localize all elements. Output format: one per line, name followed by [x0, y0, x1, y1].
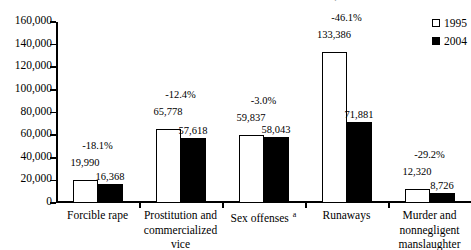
category-label-line: Prostitution and [144, 208, 217, 223]
bar-value-label: 12,320 [403, 166, 432, 177]
category-label-line: nonnegligent [399, 223, 461, 238]
y-axis-tick-mark [50, 157, 56, 159]
category-label-2: Sex offensesa [231, 208, 297, 225]
category-label-line: Runaways [323, 208, 371, 223]
y-axis-tick-label: 20,000 [20, 172, 52, 184]
y-axis-tick-mark [50, 89, 56, 91]
bar-value-label: 133,386 [317, 29, 351, 40]
y-axis-tick-label: 120,000 [15, 59, 52, 71]
bar-2004-0 [98, 184, 123, 203]
category-label-4: Murder andnonnegligentmanslaughter [399, 208, 461, 250]
bar-2004-1 [181, 138, 206, 203]
category-label-line: Sex offensesa [231, 208, 297, 225]
y-axis-tick-label: 60,000 [20, 127, 52, 139]
bar-1995-2 [239, 135, 264, 203]
y-axis-tick-mark [50, 66, 56, 68]
y-axis-tick-mark [50, 21, 56, 23]
y-axis-tick-label: 160,000 [15, 14, 52, 26]
bar-value-label: 65,778 [154, 106, 183, 117]
y-axis-line [56, 22, 58, 203]
category-label-line: vice [144, 237, 217, 250]
arrest-trends-bar-chart: ARREST TRENDS FOR SELECTED OFFENSES, 199… [0, 0, 471, 250]
y-axis-tick-label: 80,000 [20, 105, 52, 117]
y-axis-tick-mark [50, 202, 56, 204]
percent-change-label: -12.4% [165, 89, 196, 100]
category-footnote-marker: a [293, 210, 297, 219]
bar-value-label: 58,043 [262, 124, 291, 135]
y-axis-tick-mark [50, 134, 56, 136]
bar-value-label: 59,837 [237, 112, 266, 123]
category-label-line: manslaughter [399, 237, 461, 250]
category-label-line: Murder and [399, 208, 461, 223]
bar-2004-3 [347, 122, 372, 203]
bar-value-label: 16,368 [96, 171, 125, 182]
x-axis-tick-mark [305, 202, 307, 208]
category-label-1: Prostitution andcommercializedvice [144, 208, 217, 250]
plot-area: 160,000140,000120,000100,00080,00060,000… [56, 22, 471, 203]
bar-1995-0 [73, 180, 98, 203]
percent-change-label: -46.1% [331, 12, 362, 23]
bar-1995-1 [156, 129, 181, 203]
bar-value-label: 57,618 [179, 125, 208, 136]
y-axis-tick-mark [50, 112, 56, 114]
bar-value-label: 19,990 [71, 157, 100, 168]
percent-change-label: -29.2% [414, 149, 445, 160]
y-axis-tick-label: 0 [46, 195, 52, 207]
chart-title: ARREST TRENDS FOR SELECTED OFFENSES, 199… [0, 0, 471, 1]
bar-value-label: 71,881 [345, 109, 374, 120]
category-label-line: Forcible rape [67, 208, 128, 223]
bar-value-label: 8,726 [430, 180, 454, 191]
y-axis-tick-label: 100,000 [15, 82, 52, 94]
y-axis-tick-label: 40,000 [20, 150, 52, 162]
category-label-3: Runaways [323, 208, 371, 223]
x-axis-tick-mark [388, 202, 390, 208]
y-axis-tick-mark [50, 180, 56, 182]
bar-1995-4 [405, 189, 430, 203]
x-axis-tick-mark [139, 202, 141, 208]
bar-2004-4 [430, 193, 455, 203]
y-axis-tick-label: 140,000 [15, 37, 52, 49]
percent-change-label: -18.1% [82, 140, 113, 151]
y-axis-tick-mark [50, 44, 56, 46]
percent-change-label: -3.0% [251, 95, 276, 106]
category-label-line: commercialized [144, 223, 217, 238]
bar-1995-3 [322, 52, 347, 203]
x-axis-tick-mark [222, 202, 224, 208]
bar-2004-2 [264, 137, 289, 203]
category-label-0: Forcible rape [67, 208, 128, 223]
